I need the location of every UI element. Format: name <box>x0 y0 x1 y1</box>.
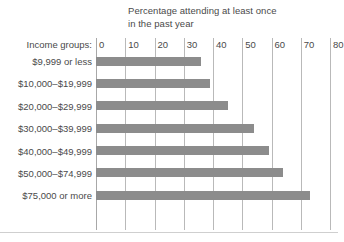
bar <box>96 168 283 177</box>
bar-track <box>96 74 330 96</box>
bar-row: $40,000–$49,999 <box>0 142 338 164</box>
category-label: $20,000–$29,999 <box>18 101 92 112</box>
bar <box>96 57 201 66</box>
category-label: $10,000–$19,999 <box>18 78 92 89</box>
axis-group-label: Income groups: <box>27 39 92 50</box>
bar <box>96 146 269 155</box>
x-tick-label-80: 80 <box>330 39 344 50</box>
bar-row: $10,000–$19,999 <box>0 74 338 96</box>
bar-track <box>96 186 330 208</box>
bar <box>96 101 228 110</box>
bar-row: $20,000–$29,999 <box>0 97 338 119</box>
category-label: $9,999 or less <box>32 56 92 67</box>
bar <box>96 79 210 88</box>
bar <box>96 124 254 133</box>
chart-bottom-border <box>0 232 338 233</box>
bar-track <box>96 142 330 164</box>
category-label: $50,000–$74,999 <box>18 168 92 179</box>
bar-rows: $9,999 or less$10,000–$19,999$20,000–$29… <box>0 52 338 230</box>
bar-track <box>96 164 330 186</box>
bar-track <box>96 97 330 119</box>
bar-track <box>96 52 330 74</box>
bar-row: $50,000–$74,999 <box>0 164 338 186</box>
category-label: $30,000–$39,999 <box>18 123 92 134</box>
category-label: $75,000 or more <box>22 190 92 201</box>
bar-track <box>96 119 330 141</box>
bar-row: $75,000 or more <box>0 186 338 208</box>
chart-title: Percentage attending at least once in th… <box>128 5 328 30</box>
bar-row: $30,000–$39,999 <box>0 119 338 141</box>
category-label: $40,000–$49,999 <box>18 146 92 157</box>
bar-row: $9,999 or less <box>0 52 338 74</box>
bar <box>96 191 310 200</box>
